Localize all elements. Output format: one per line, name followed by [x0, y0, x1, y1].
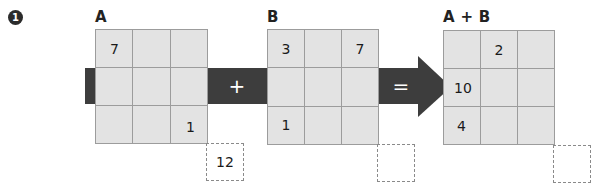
matrix-b-cell[interactable] — [268, 68, 304, 105]
matrix-a-grid: 7 1 — [95, 29, 208, 144]
matrix-a-label: A — [95, 8, 107, 26]
matrix-a-answer-box[interactable]: 12 — [206, 143, 244, 181]
matrix-a-cell[interactable] — [133, 30, 169, 67]
plus-operator: + — [207, 68, 267, 104]
matrix-a-cell[interactable] — [133, 68, 169, 105]
matrix-b-cell[interactable] — [342, 68, 378, 105]
matrix-b-label: B — [267, 8, 279, 26]
matrix-a-cell[interactable] — [133, 106, 169, 143]
matrix-b-cell[interactable] — [305, 107, 341, 144]
equals-operator: = — [378, 68, 424, 104]
matrix-b-grid: 3 7 1 — [267, 29, 379, 145]
matrix-a-cell[interactable]: 1 — [171, 106, 207, 143]
matrix-sum-grid: 2 10 4 — [443, 30, 555, 145]
matrix-sum-cell[interactable] — [481, 69, 517, 106]
matrix-sum-cell[interactable]: 4 — [444, 107, 480, 144]
matrix-sum-cell[interactable] — [481, 107, 517, 144]
matrix-a-cell[interactable] — [96, 106, 132, 143]
matrix-b-cell[interactable] — [305, 68, 341, 105]
matrix-a-cell[interactable]: 7 — [96, 30, 132, 67]
matrix-b-cell[interactable] — [305, 30, 341, 67]
matrix-sum-cell[interactable] — [518, 107, 554, 144]
matrix-a-cell[interactable] — [96, 68, 132, 105]
matrix-sum-cell[interactable] — [444, 31, 480, 68]
matrix-sum-answer-box[interactable] — [553, 145, 591, 183]
matrix-sum-cell[interactable] — [518, 31, 554, 68]
matrix-sum-cell[interactable] — [518, 69, 554, 106]
matrix-a-cell[interactable] — [171, 30, 207, 67]
problem-number-badge: 1 — [8, 10, 23, 25]
matrix-b-answer-box[interactable] — [377, 144, 415, 182]
matrix-a-cell[interactable] — [171, 68, 207, 105]
matrix-b-cell[interactable] — [342, 107, 378, 144]
matrix-b-cell[interactable]: 3 — [268, 30, 304, 67]
matrix-sum-label: A + B — [443, 8, 491, 26]
matrix-b-cell[interactable]: 7 — [342, 30, 378, 67]
matrix-sum-cell[interactable]: 10 — [444, 69, 480, 106]
matrix-sum-cell[interactable]: 2 — [481, 31, 517, 68]
matrix-b-cell[interactable]: 1 — [268, 107, 304, 144]
